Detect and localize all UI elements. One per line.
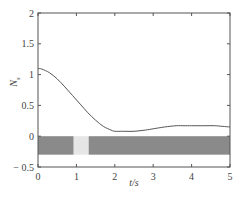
x-tick-label: 0 [36, 171, 41, 182]
y-tick-label: − 0.5 [13, 162, 34, 173]
x-tick-label: 3 [151, 171, 156, 182]
chart-figure: 012345− 0.500.511.52 t/s Ns [0, 0, 243, 198]
axis-ticks: 012345− 0.500.511.52 [13, 8, 232, 183]
y-axis-label: Ns [8, 77, 22, 88]
x-tick-label: 4 [189, 171, 194, 182]
y-tick-label: 0 [29, 131, 34, 142]
y-tick-label: 0.5 [22, 100, 35, 111]
x-tick-label: 1 [74, 171, 79, 182]
y-tick-label: 1 [29, 69, 34, 80]
band-segment [38, 136, 74, 154]
band-segment [89, 136, 230, 154]
y-tick-label: 2 [29, 8, 34, 19]
y-tick-label: 1.5 [22, 38, 35, 49]
data-line [38, 68, 230, 131]
x-tick-label: 5 [228, 171, 233, 182]
x-tick-label: 2 [112, 171, 117, 182]
state-band [38, 136, 230, 154]
band-segment [74, 136, 89, 154]
svg-text:Ns: Ns [8, 77, 22, 88]
x-axis-label: t/s [129, 177, 139, 188]
